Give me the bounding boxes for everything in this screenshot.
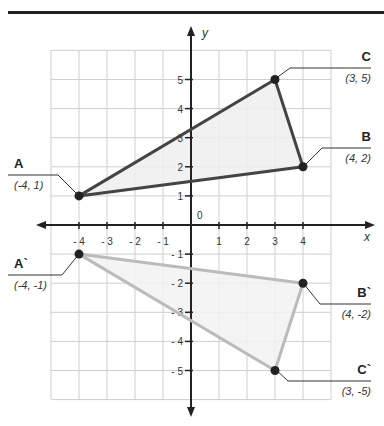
- y-axis-label: y: [201, 26, 209, 40]
- axes: [36, 26, 375, 417]
- point-c-prime: [271, 366, 280, 375]
- label-b: B: [362, 129, 371, 144]
- label-b-prime: B`: [357, 285, 371, 300]
- point-a-prime: [75, 250, 84, 259]
- label-a-prime: A`: [14, 256, 28, 271]
- y-tick-label: 4: [177, 104, 183, 115]
- y-tick-label: - 1: [171, 249, 183, 260]
- y-tick-label: - 4: [171, 336, 183, 347]
- y-tick-label: - 2: [171, 278, 183, 289]
- origin-label: 0: [197, 210, 203, 221]
- x-tick-label: - 3: [101, 236, 113, 247]
- x-tick-label: 4: [300, 236, 306, 247]
- x-axis-right-arrow-icon: [365, 221, 375, 229]
- x-axis-left-arrow-icon: [36, 221, 46, 229]
- y-tick-label: - 5: [171, 366, 183, 377]
- label-c-prime: C`: [357, 362, 371, 377]
- point-c: [271, 75, 280, 84]
- x-tick-label: 3: [272, 236, 278, 247]
- coord-a: (-4, 1): [14, 179, 44, 191]
- label-c: C: [362, 49, 372, 64]
- point-b-prime: [299, 279, 308, 288]
- coord-c: (3, 5): [345, 72, 371, 84]
- coordinate-plane-diagram: - 4- 3- 2- 1123454321- 1- 2- 3- 4- 5 y x…: [0, 0, 384, 426]
- coord-c-prime: (3, -5): [342, 385, 372, 397]
- y-tick-label: 2: [177, 162, 183, 173]
- x-tick-label: - 2: [129, 236, 141, 247]
- coord-a-prime: (-4, -1): [14, 279, 47, 291]
- top-rule: [8, 11, 384, 14]
- x-tick-label: 2: [244, 236, 250, 247]
- x-axis-label: x: [363, 230, 371, 244]
- coord-b-prime: (4, -2): [342, 308, 372, 320]
- y-axis-up-arrow-icon: [187, 26, 195, 36]
- point-a: [75, 191, 84, 200]
- x-tick-label: - 1: [157, 236, 169, 247]
- y-tick-label: 1: [177, 191, 183, 202]
- y-tick-label: 5: [177, 75, 183, 86]
- x-tick-label: 1: [216, 236, 222, 247]
- label-a: A: [14, 156, 24, 171]
- point-b: [299, 162, 308, 171]
- x-tick-label: - 4: [73, 236, 85, 247]
- coord-b: (4, 2): [345, 152, 371, 164]
- y-axis-down-arrow-icon: [187, 407, 195, 417]
